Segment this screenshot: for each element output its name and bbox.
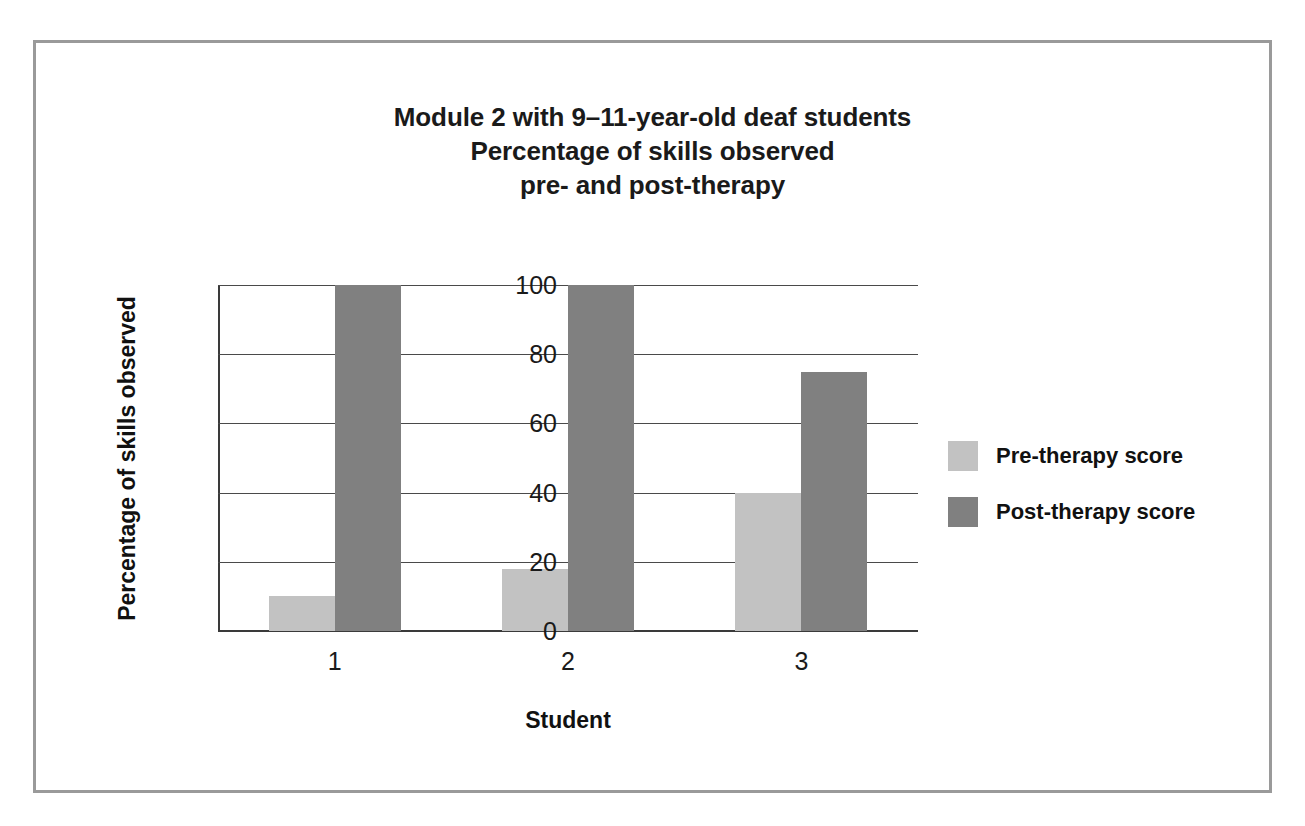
legend-swatch-post-therapy	[948, 497, 978, 527]
figure-frame: Module 2 with 9–11-year-old deaf student…	[33, 40, 1272, 793]
y-axis-title-text: Percentage of skills observed	[114, 296, 141, 621]
y-axis-line	[218, 285, 220, 631]
bar-group-student-2	[502, 285, 634, 631]
chart-legend: Pre-therapy score Post-therapy score	[948, 441, 1195, 553]
legend-label-post-therapy: Post-therapy score	[996, 499, 1195, 525]
legend-label-pre-therapy: Pre-therapy score	[996, 443, 1183, 469]
x-tick-label-1: 1	[265, 647, 405, 676]
bar-group-student-1	[269, 285, 401, 631]
legend-item-pre-therapy: Pre-therapy score	[948, 441, 1195, 471]
chart-title: Module 2 with 9–11-year-old deaf student…	[36, 101, 1269, 202]
bar-group-student-3	[735, 285, 867, 631]
bar-post-therapy-student-3	[801, 372, 867, 632]
y-tick-label-40: 40	[437, 478, 557, 507]
chart-title-line-2: Percentage of skills observed	[36, 135, 1269, 169]
bar-post-therapy-student-1	[335, 285, 401, 631]
plot-area	[218, 285, 918, 631]
chart-title-line-1: Module 2 with 9–11-year-old deaf student…	[36, 101, 1269, 135]
chart-title-line-3: pre- and post-therapy	[36, 169, 1269, 203]
x-tick-label-2: 2	[498, 647, 638, 676]
legend-item-post-therapy: Post-therapy score	[948, 497, 1195, 527]
y-tick-label-80: 80	[437, 340, 557, 369]
x-tick-label-3: 3	[731, 647, 871, 676]
bar-post-therapy-student-2	[568, 285, 634, 631]
y-tick-label-100: 100	[437, 271, 557, 300]
bar-pre-therapy-student-1	[269, 596, 335, 631]
legend-swatch-pre-therapy	[948, 441, 978, 471]
y-axis-title: Percentage of skills observed	[112, 285, 142, 631]
y-tick-label-0: 0	[437, 617, 557, 646]
y-tick-label-20: 20	[437, 547, 557, 576]
bar-pre-therapy-student-3	[735, 493, 801, 631]
x-axis-title: Student	[218, 707, 918, 734]
y-tick-label-60: 60	[437, 409, 557, 438]
